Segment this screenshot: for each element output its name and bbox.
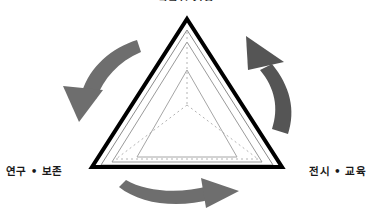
arrow-right-body	[260, 64, 291, 134]
arrow-bottom-body	[119, 180, 212, 204]
vertex-label-left: 연구 • 보존	[6, 166, 63, 178]
arrow-left-head-icon	[63, 86, 103, 122]
arrow-bottom-head-icon	[201, 178, 239, 208]
diagram-canvas: 박물관 기능 연구 • 보존 전시 • 교육	[0, 0, 372, 221]
vertex-label-right: 전시 • 교육	[309, 166, 366, 178]
arrow-right-head-icon	[246, 36, 284, 70]
triangle-cycle-svg	[0, 0, 372, 221]
vertex-label-top: 박물관 기능	[0, 0, 372, 1]
arrow-bottom	[119, 178, 239, 208]
